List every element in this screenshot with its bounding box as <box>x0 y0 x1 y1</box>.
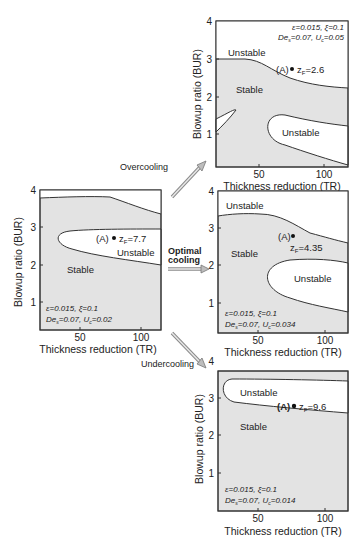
arrow-overcooling <box>172 161 206 197</box>
ytick-1: 1 <box>208 298 214 309</box>
ytick-4: 4 <box>208 356 214 367</box>
point-a-label: (A) <box>278 231 291 242</box>
zf-label: zF=2.6 <box>297 64 324 76</box>
panel-overcooling: 4 3 2 1 50 100 Thickness reduction (TR) … <box>191 16 348 192</box>
region-label-stable: Stable <box>231 248 258 259</box>
undercooling-label: Undercooling <box>141 359 194 369</box>
panel-base: 4 3 2 1 50 100 Thickness reduction (TR) … <box>12 185 161 355</box>
ytick-3: 3 <box>208 393 214 404</box>
point-a-marker <box>290 67 294 71</box>
region-label-stable: Stable <box>67 264 94 275</box>
panel-optimal: 4 3 2 1 50 100 Thickness reduction (TR) … <box>208 186 348 358</box>
y-axis-label: Blowup ratio (BUR) <box>12 217 24 307</box>
params-line2: Des=0.07, Uc=0.02 <box>46 315 112 325</box>
region-label-stable: Stable <box>236 84 263 95</box>
xtick-100: 100 <box>317 513 334 524</box>
ytick-2: 2 <box>206 92 212 103</box>
region-label-unstable: Unstable <box>117 247 155 258</box>
ytick-4: 4 <box>208 186 214 197</box>
overcooling-label: Overcooling <box>120 162 168 172</box>
ytick-2: 2 <box>208 260 214 271</box>
panel-undercooling: 4 3 2 1 50 100 Thickness reduction (TR) … <box>193 356 348 537</box>
figure: 4 3 2 1 50 100 Thickness reduction (TR) … <box>0 0 357 542</box>
region-label-unstable: Unstable <box>226 200 264 211</box>
region-label-unstable: Unstable <box>228 47 266 58</box>
ytick-1: 1 <box>30 297 36 308</box>
ytick-2: 2 <box>30 260 36 271</box>
zf-label: zF=9.6 <box>299 401 326 413</box>
arrow-optimal-cooling <box>168 265 209 273</box>
point-a-marker <box>291 234 295 238</box>
ytick-3: 3 <box>30 222 36 233</box>
region-label-unstable-2: Unstable <box>294 273 332 284</box>
x-axis-label: Thickness reduction (TR) <box>39 343 156 355</box>
ytick-4: 4 <box>206 16 212 27</box>
x-axis-label: Thickness reduction (TR) <box>224 525 341 537</box>
zf-label: zF=7.7 <box>119 233 146 245</box>
point-a-marker <box>112 236 116 240</box>
region-label-unstable-2: Unstable <box>282 127 320 138</box>
xtick-50: 50 <box>253 169 265 180</box>
x-axis-label: Thickness reduction (TR) <box>224 346 341 358</box>
ytick-1: 1 <box>206 129 212 140</box>
point-a-label: (A) <box>277 401 290 412</box>
params-line1: ε=0.015, ξ=0.1 <box>225 485 277 494</box>
xtick-50: 50 <box>74 332 86 343</box>
xtick-100: 100 <box>133 332 150 343</box>
ytick-3: 3 <box>206 54 212 65</box>
xtick-100: 100 <box>316 169 333 180</box>
y-axis-label: Blowup ratio (BUR) <box>193 394 205 484</box>
xtick-50: 50 <box>252 335 264 346</box>
region-label-unstable: Unstable <box>240 387 278 398</box>
point-a-label: (A) <box>96 233 109 244</box>
ytick-3: 3 <box>208 223 214 234</box>
optimal-cooling-label-2: cooling <box>168 255 200 265</box>
x-axis-label: Thickness reduction (TR) <box>223 180 340 192</box>
region-label-stable: Stable <box>240 421 267 432</box>
params-line1: ε=0.015, ξ=0.1 <box>292 23 344 32</box>
point-a-label: (A) <box>276 64 289 75</box>
ytick-1: 1 <box>208 468 214 479</box>
params-line1: ε=0.015, ξ=0.1 <box>225 309 277 318</box>
params-line2: Des=0.07, Uc=0.05 <box>278 33 344 43</box>
xtick-50: 50 <box>252 513 264 524</box>
y-axis-label: Blowup ratio (BUR) <box>191 49 203 139</box>
point-a-marker <box>292 404 296 408</box>
xtick-100: 100 <box>317 335 334 346</box>
ytick-2: 2 <box>208 430 214 441</box>
params-line1: ε=0.015, ξ=0.1 <box>46 304 98 313</box>
ytick-4: 4 <box>30 185 36 196</box>
